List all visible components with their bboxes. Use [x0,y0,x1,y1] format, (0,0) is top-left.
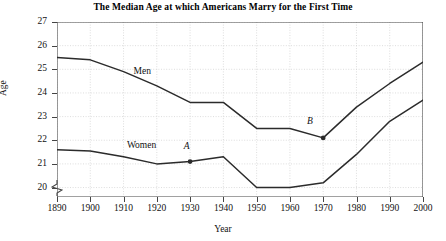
plot-svg [57,22,423,197]
x-axis-title: Year [0,224,446,234]
point-label-b: B [307,116,313,126]
plot-area [57,22,423,197]
series-line-women [57,100,423,187]
x-tick-mark [223,197,224,202]
x-tick-mark [357,197,358,202]
y-tick-label: 22 [25,135,47,145]
y-tick-label: 20 [25,183,47,193]
data-point-a [188,159,193,164]
x-tick-mark [423,197,424,202]
y-tick-label: 26 [25,41,47,51]
series-label-women: Women [127,140,156,150]
chart-container: The Median Age at which Americans Marry … [0,0,446,241]
chart-title: The Median Age at which Americans Marry … [0,2,446,12]
y-tick-label: 27 [25,17,47,27]
data-point-b [321,135,326,140]
x-tick-mark [157,197,158,202]
y-tick-label: 24 [25,88,47,98]
series-label-men: Men [134,66,151,76]
y-axis-title: Age [0,80,8,96]
x-tick-mark [190,197,191,202]
x-tick-mark [390,197,391,202]
x-tick-mark [290,197,291,202]
x-tick-mark [57,197,58,202]
y-tick-label: 21 [25,159,47,169]
y-tick-label: 23 [25,112,47,122]
x-tick-label: 2000 [403,204,443,214]
x-tick-mark [90,197,91,202]
y-tick-label: 25 [25,64,47,74]
point-label-a: A [184,141,190,151]
x-tick-mark [323,197,324,202]
x-tick-mark [124,197,125,202]
x-tick-mark [257,197,258,202]
